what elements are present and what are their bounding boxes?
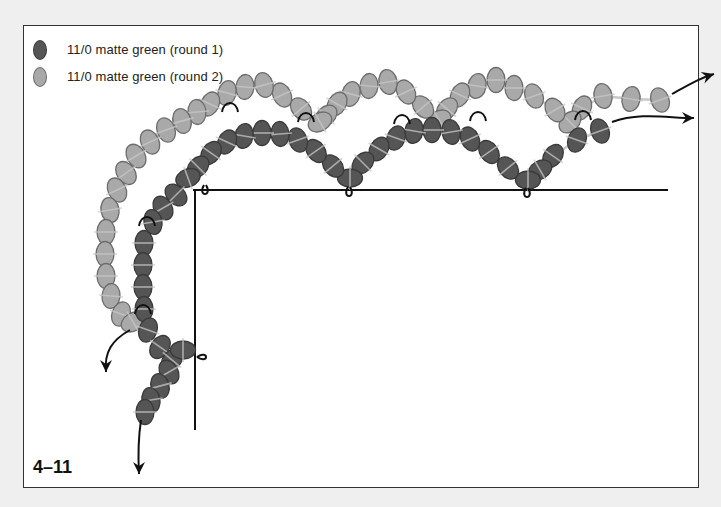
arrow-line [106, 330, 130, 372]
thread-loop [197, 355, 206, 360]
thread-loop [346, 187, 352, 196]
thread-loops [135, 103, 591, 359]
round-1-bead [131, 275, 155, 300]
round-2-bead [93, 242, 117, 267]
legend-label: 11/0 matte green (round 1) [67, 42, 223, 57]
round-1-bead [131, 253, 155, 278]
base-edge-lines [193, 190, 668, 430]
legend: 11/0 matte green (round 1) 11/0 matte gr… [33, 36, 223, 90]
round-1-bead [584, 115, 615, 147]
legend-item-round-1: 11/0 matte green (round 1) [33, 36, 223, 63]
light-bead-icon [33, 67, 47, 87]
arrowhead-icon [701, 68, 716, 83]
dark-bead-icon [33, 40, 47, 60]
round-2-bead [94, 220, 118, 245]
legend-item-round-2: 11/0 matte green (round 2) [33, 63, 223, 90]
arrow-line [612, 116, 694, 122]
round-1-beads [131, 115, 616, 424]
figure-number: 4–11 [33, 457, 72, 478]
thread-loop [470, 112, 486, 121]
legend-label: 11/0 matte green (round 2) [67, 69, 223, 84]
